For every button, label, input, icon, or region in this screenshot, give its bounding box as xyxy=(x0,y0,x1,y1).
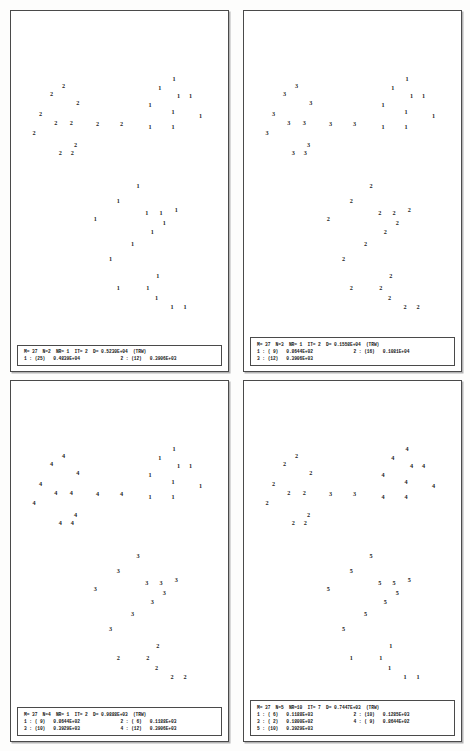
data-point: 5 xyxy=(327,586,330,592)
data-point: 3 xyxy=(131,611,134,617)
data-point: 3 xyxy=(287,120,290,126)
data-point: 5 xyxy=(392,580,395,586)
data-point: 2 xyxy=(50,91,53,97)
data-point: 2 xyxy=(350,198,353,204)
data-point: 1 xyxy=(177,93,180,99)
data-point: 2 xyxy=(342,256,345,262)
data-point: 4 xyxy=(382,472,385,478)
data-point: 2 xyxy=(32,130,35,136)
data-point: 4 xyxy=(391,455,394,461)
data-point: 2 xyxy=(120,121,123,127)
panel-1: 2222222222221111111111111111111111111 M=… xyxy=(10,10,229,372)
data-point: 2 xyxy=(54,120,57,126)
data-point: 3 xyxy=(272,111,275,117)
panel-2-cluster-row: 1 : ( 9) 0.8644E+02 2 : (16) 0.1081E+04 xyxy=(257,348,450,355)
data-point: 4 xyxy=(74,512,77,518)
data-point: 1 xyxy=(158,455,161,461)
data-point: 2 xyxy=(156,643,159,649)
data-point: 5 xyxy=(378,580,381,586)
panel-4-cluster-2: 2 : (10) 0.1285E+03 xyxy=(354,711,451,718)
data-point: 1 xyxy=(388,665,391,671)
panel-2: 3333333333331111111112222222222222222 M=… xyxy=(243,10,462,372)
panel-3-footer: M= 37 N=4 NR= 1 IT= 2 D= 0.9888E+03 (TRW… xyxy=(17,707,222,736)
data-point: 5 xyxy=(369,553,372,559)
data-point: 4 xyxy=(50,461,53,467)
data-point: 1 xyxy=(146,285,149,291)
data-point: 1 xyxy=(158,85,161,91)
data-point: 1 xyxy=(422,93,425,99)
data-point: 3 xyxy=(295,83,298,89)
data-point: 5 xyxy=(384,599,387,605)
data-point: 3 xyxy=(304,150,307,156)
data-point: 2 xyxy=(378,210,381,216)
panel-4-footer: M= 37 N=5 NR=10 IT= 7 D= 0.7447E+03 (TRW… xyxy=(250,700,455,736)
data-point: 4 xyxy=(432,483,435,489)
data-point: 1 xyxy=(382,102,385,108)
data-point: 1 xyxy=(417,674,420,680)
data-point: 3 xyxy=(151,599,154,605)
panel-2-cluster-blank xyxy=(354,355,451,362)
data-point: 2 xyxy=(71,150,74,156)
data-point: 2 xyxy=(389,273,392,279)
data-point: 2 xyxy=(272,481,275,487)
data-point: 1 xyxy=(145,210,148,216)
data-point: 2 xyxy=(292,520,295,526)
data-point: 3 xyxy=(175,577,178,583)
data-point: 2 xyxy=(403,304,406,310)
data-point: 1 xyxy=(163,220,166,226)
data-point: 1 xyxy=(379,655,382,661)
panel-2-cluster-row: 3 : (12) 0.3906E+03 xyxy=(257,355,450,362)
data-point: 3 xyxy=(309,100,312,106)
data-point: 5 xyxy=(408,577,411,583)
panel-4-cluster-blank xyxy=(354,725,451,732)
data-point: 2 xyxy=(62,83,65,89)
data-point: 1 xyxy=(136,183,139,189)
data-point: 4 xyxy=(62,453,65,459)
data-point: 1 xyxy=(172,494,175,500)
data-point: 2 xyxy=(396,220,399,226)
data-point: 2 xyxy=(283,461,286,467)
data-point: 1 xyxy=(172,109,175,115)
data-point: 2 xyxy=(117,655,120,661)
data-point: 3 xyxy=(307,142,310,148)
data-point: 1 xyxy=(117,198,120,204)
data-point: 2 xyxy=(96,121,99,127)
data-point: 2 xyxy=(369,183,372,189)
data-point: 1 xyxy=(403,674,406,680)
data-point: 3 xyxy=(292,150,295,156)
data-point: 1 xyxy=(391,85,394,91)
data-point: 1 xyxy=(149,124,152,130)
panel-4-cluster-row: 5 : (10) 0.3929E+03 xyxy=(257,725,450,732)
data-point: 1 xyxy=(149,494,152,500)
data-point: 5 xyxy=(342,626,345,632)
data-point: 2 xyxy=(74,142,77,148)
data-point: 2 xyxy=(39,111,42,117)
panel-1-cluster-2: 2 : (12) 0.3906E+03 xyxy=(121,355,218,362)
panel-3: 4444444444441111111113333333333222222 M=… xyxy=(10,380,229,742)
panel-3-cluster-3: 3 : (10) 0.3929E+03 xyxy=(24,725,121,732)
data-point: 2 xyxy=(76,100,79,106)
data-point: 1 xyxy=(170,304,173,310)
panel-2-cluster-3: 3 : (12) 0.3906E+03 xyxy=(257,355,354,362)
data-point: 2 xyxy=(59,150,62,156)
data-point: 2 xyxy=(303,490,306,496)
data-point: 2 xyxy=(155,665,158,671)
panel-4-cluster-row: 3 : ( 2) 0.1800E+02 4 : ( 9) 0.8644E+02 xyxy=(257,718,450,725)
data-point: 3 xyxy=(117,568,120,574)
data-point: 5 xyxy=(364,611,367,617)
panel-3-cluster-2: 2 : ( 6) 0.1188E+03 xyxy=(121,718,218,725)
data-point: 2 xyxy=(417,304,420,310)
data-point: 1 xyxy=(149,472,152,478)
data-point: 3 xyxy=(145,580,148,586)
panel-3-header: M= 37 N=4 NR= 1 IT= 2 D= 0.9888E+03 (TRW… xyxy=(24,711,217,718)
data-point: 1 xyxy=(172,124,175,130)
data-point: 4 xyxy=(54,490,57,496)
data-point: 1 xyxy=(94,216,97,222)
panel-2-header: M= 37 N=3 NR= 1 IT= 2 D= 0.1558E+04 (TRW… xyxy=(257,341,450,348)
data-point: 1 xyxy=(199,483,202,489)
data-point: 3 xyxy=(136,553,139,559)
data-point: 2 xyxy=(364,241,367,247)
data-point: 4 xyxy=(405,479,408,485)
data-point: 1 xyxy=(131,241,134,247)
panel-2-plot: 3333333333331111111112222222222222222 xyxy=(244,11,461,371)
